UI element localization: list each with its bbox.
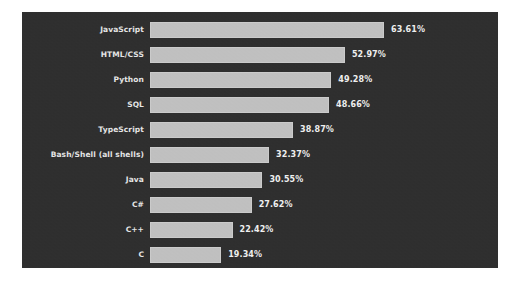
bar [150,222,233,238]
plot-area: JavaScript63.61%HTML/CSS52.97%Python49.2… [22,12,498,268]
category-label: C [138,247,144,263]
category-label: Bash/Shell (all shells) [51,147,144,163]
bar [150,47,345,63]
bar-value-label: 32.37% [276,147,310,163]
bar-value-label: 52.97% [352,47,386,63]
bar [150,172,262,188]
bar-track [150,22,384,38]
chart-panel: JavaScript63.61%HTML/CSS52.97%Python49.2… [22,12,498,268]
bar-value-label: 49.28% [338,72,372,88]
bar-row: C19.34% [22,247,498,263]
bar [150,247,221,263]
category-label: JavaScript [100,22,144,38]
bar-row: Java30.55% [22,172,498,188]
category-label: Java [126,172,144,188]
bar-row: HTML/CSS52.97% [22,47,498,63]
bar-row: TypeScript38.87% [22,122,498,138]
bar-track [150,172,262,188]
bar-track [150,197,252,213]
category-label: HTML/CSS [101,47,144,63]
category-label: TypeScript [98,122,144,138]
bar-row: JavaScript63.61% [22,22,498,38]
bar-track [150,97,329,113]
bar-track [150,222,233,238]
bar-value-label: 30.55% [269,172,303,188]
bar [150,122,293,138]
bar [150,147,269,163]
bar-row: SQL48.66% [22,97,498,113]
bar-track [150,147,269,163]
category-label: SQL [127,97,144,113]
bar-track [150,47,345,63]
bar [150,72,331,88]
category-label: Python [113,72,144,88]
bar-row: C#27.62% [22,197,498,213]
bar [150,22,384,38]
bar-value-label: 63.61% [391,22,425,38]
bar-row: Bash/Shell (all shells)32.37% [22,147,498,163]
bar-track [150,122,293,138]
bar-value-label: 38.87% [300,122,334,138]
bar-track [150,72,331,88]
bar-value-label: 22.42% [240,222,274,238]
bar-row: C++22.42% [22,222,498,238]
chart-figure: JavaScript63.61%HTML/CSS52.97%Python49.2… [0,0,512,285]
bar-value-label: 27.62% [259,197,293,213]
bar-value-label: 19.34% [228,247,262,263]
bar [150,97,329,113]
bar [150,197,252,213]
category-label: C# [132,197,144,213]
bar-value-label: 48.66% [336,97,370,113]
bar-track [150,247,221,263]
bar-row: Python49.28% [22,72,498,88]
category-label: C++ [126,222,144,238]
